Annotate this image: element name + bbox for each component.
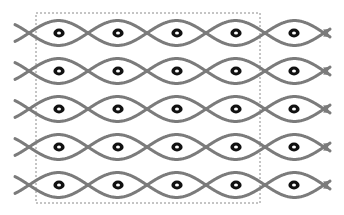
ring-dot	[171, 143, 182, 152]
woven-mesh-diagram	[0, 0, 344, 215]
ring-dot	[112, 29, 123, 38]
ring-dot	[53, 67, 64, 76]
ring-dot	[230, 181, 241, 190]
ring-dot	[230, 67, 241, 76]
ring-dot	[112, 67, 123, 76]
ring-dot	[112, 181, 123, 190]
ring-dot	[288, 29, 299, 38]
ring-dot	[288, 181, 299, 190]
ring-dot	[53, 143, 64, 152]
ring-dot	[112, 105, 123, 114]
ring-dot	[288, 105, 299, 114]
ring-dot	[112, 143, 123, 152]
ring-dot	[171, 181, 182, 190]
ring-dot	[53, 29, 64, 38]
ring-dot	[53, 105, 64, 114]
ring-dot	[230, 143, 241, 152]
ring-dot	[171, 29, 182, 38]
ring-dot	[230, 105, 241, 114]
ring-dot	[53, 181, 64, 190]
ring-dot	[171, 67, 182, 76]
ring-dot	[230, 29, 241, 38]
ring-dot	[171, 105, 182, 114]
ring-dot	[288, 143, 299, 152]
ring-dot	[288, 67, 299, 76]
